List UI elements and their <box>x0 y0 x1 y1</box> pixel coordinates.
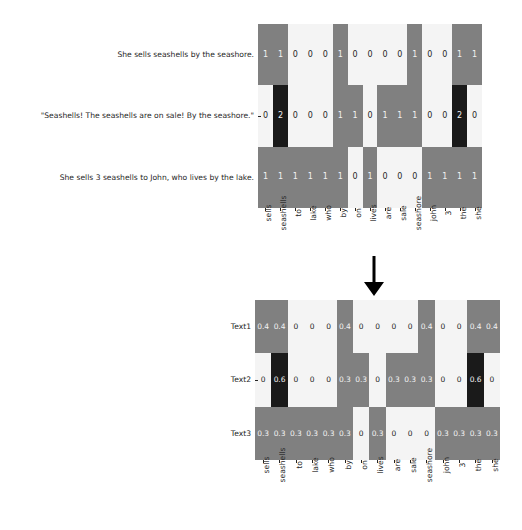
heatmap-cell: 1 <box>348 85 363 146</box>
column-tick-label: she <box>492 458 500 471</box>
column-tick-label: she <box>475 206 483 219</box>
heatmap-cell: 0.4 <box>418 300 434 353</box>
column-label: on <box>348 208 363 260</box>
column-label: sells <box>255 460 271 520</box>
heatmap-cell: 0 <box>392 24 407 85</box>
heatmap-cell: 1 <box>452 147 467 208</box>
heatmap-cell: 0.3 <box>451 407 467 460</box>
column-tick-label: to <box>295 209 303 217</box>
heatmap-cell: 0.3 <box>255 407 271 460</box>
column-label: by <box>337 460 353 520</box>
heatmap-cell: 0 <box>435 353 451 406</box>
column-tick-label: 3 <box>459 463 467 468</box>
heatmap-cell: 1 <box>452 24 467 85</box>
column-label: 3 <box>451 460 467 520</box>
heatmap-cell: 0 <box>303 85 318 146</box>
column-label: on <box>353 460 369 520</box>
column-tick-label: are <box>385 207 393 219</box>
column-tick-label: sale <box>410 457 418 472</box>
column-tick-label: lake <box>312 457 320 473</box>
figure-canvas: 1100010000100110200011011100201111110100… <box>0 0 522 530</box>
heatmap-cell: 0.4 <box>255 300 271 353</box>
column-tick-label: lives <box>370 204 378 221</box>
heatmap-cell: 0.3 <box>337 353 353 406</box>
raw-count-column-labels: sellsseashellstolakewhobyonlivesaresales… <box>258 208 482 260</box>
heatmap-cell: 0 <box>318 85 333 146</box>
column-label: she <box>467 208 482 260</box>
row-tick-label: "Seashells! The seashells are on sale! B… <box>41 111 254 120</box>
column-tick-label: who <box>328 457 336 473</box>
heatmap-cells: 1100010000100110200011011100201111110100… <box>258 24 482 208</box>
row-label: She sells seashells by the seashore. <box>0 24 258 85</box>
heatmap-cell: 0.6 <box>271 353 287 406</box>
heatmap-cell: 2 <box>273 85 288 146</box>
heatmap-cell: 0.3 <box>369 407 385 460</box>
column-label: to <box>288 460 304 520</box>
column-tick-label: lives <box>377 456 385 473</box>
heatmap-cell: 0.3 <box>304 407 320 460</box>
heatmap-cell: 0 <box>451 300 467 353</box>
column-label: seashore <box>407 208 422 260</box>
column-tick-label: john <box>430 205 438 221</box>
heatmap-cell: 1 <box>467 24 482 85</box>
row-label: She sells 3 seashells to John, who lives… <box>0 147 258 208</box>
y-tick-mark <box>255 380 258 381</box>
heatmap-cell: 1 <box>363 147 378 208</box>
heatmap-cell: 0 <box>348 24 363 85</box>
heatmap-cell: 1 <box>377 85 392 146</box>
heatmap-cell: 0.3 <box>386 353 402 406</box>
heatmap-cell: 0 <box>386 300 402 353</box>
heatmap-cell: 0 <box>320 353 336 406</box>
heatmap-cell: 0 <box>377 24 392 85</box>
normalized-column-labels: sellsseashellstolakewhobyonlivesaresales… <box>255 460 500 520</box>
heatmap-cell: 0.3 <box>337 407 353 460</box>
heatmap-cell: 0 <box>369 353 385 406</box>
heatmap-cell: 0 <box>303 24 318 85</box>
column-tick-label: by <box>345 460 353 469</box>
heatmap-cell: 0 <box>437 24 452 85</box>
heatmap-cell: 0 <box>402 300 418 353</box>
column-label: by <box>333 208 348 260</box>
column-tick-label: the <box>475 459 483 471</box>
row-tick-label: Text2 <box>231 375 251 384</box>
column-label: the <box>467 460 483 520</box>
raw-count-heatmap: 1100010000100110200011011100201111110100… <box>258 24 482 208</box>
column-label: john <box>422 208 437 260</box>
normalized-heatmap: 0.40.40000.400000.4000.40.400.60000.30.3… <box>255 300 500 460</box>
heatmap-cell: 0 <box>363 24 378 85</box>
column-tick-label: to <box>296 461 304 469</box>
heatmap-cell: 0 <box>451 353 467 406</box>
heatmap-cell: 0 <box>377 147 392 208</box>
row-label: Text3 <box>195 407 255 460</box>
column-tick-label: sells <box>263 457 271 474</box>
heatmap-cell: 0 <box>386 407 402 460</box>
heatmap-cell: 1 <box>407 85 422 146</box>
column-tick-label: are <box>394 459 402 471</box>
heatmap-cell: 0.4 <box>467 300 483 353</box>
column-tick-label: seashells <box>280 196 288 231</box>
column-tick-label: sells <box>265 205 273 222</box>
column-tick-label: sale <box>400 205 408 220</box>
heatmap-cell: 1 <box>318 147 333 208</box>
row-tick-label: She sells 3 seashells to John, who lives… <box>60 173 254 182</box>
row-label: Text2 <box>195 353 255 406</box>
column-tick-label: seashore <box>415 196 423 230</box>
column-tick-label: seashells <box>279 448 287 483</box>
heatmap-cell: 1 <box>273 24 288 85</box>
column-label: sells <box>258 208 273 260</box>
heatmap-cell: 0 <box>422 85 437 146</box>
column-label: lives <box>369 460 385 520</box>
column-tick-label: who <box>325 205 333 221</box>
column-label: sale <box>402 460 418 520</box>
normalized-row-labels: Text1Text2Text3 <box>195 300 255 460</box>
heatmap-cell: 2 <box>452 85 467 146</box>
heatmap-cell: 0.4 <box>484 300 500 353</box>
heatmap-cell: 1 <box>333 24 348 85</box>
heatmap-cell: 0 <box>435 300 451 353</box>
column-label: seashore <box>418 460 434 520</box>
row-label: "Seashells! The seashells are on sale! B… <box>0 85 258 146</box>
heatmap-cell: 0 <box>422 24 437 85</box>
row-tick-label: Text3 <box>231 429 251 438</box>
heatmap-cell: 0.3 <box>288 407 304 460</box>
column-tick-label: the <box>460 207 468 219</box>
